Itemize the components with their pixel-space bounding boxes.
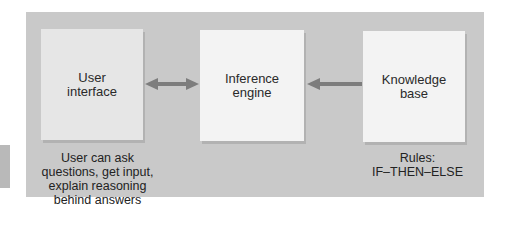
bidirectional-arrow-icon <box>145 78 199 90</box>
knowledge-base-caption: Rules: IF–THEN–ELSE <box>355 151 480 179</box>
left-arrow-icon <box>307 78 362 90</box>
user-interface-caption: User can ask questions, get input, expla… <box>30 151 165 207</box>
